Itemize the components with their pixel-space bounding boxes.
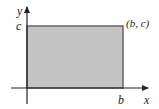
- shaded-rectangle: [27, 26, 123, 88]
- x-tick-label-b: b: [118, 93, 124, 107]
- corner-point-label: (b, c): [126, 17, 150, 30]
- x-axis-label: x: [143, 93, 150, 107]
- rectangle-diagram: y c (b, c) b x: [0, 0, 159, 109]
- y-tick-label-c: c: [16, 19, 22, 33]
- y-axis-label: y: [16, 4, 23, 18]
